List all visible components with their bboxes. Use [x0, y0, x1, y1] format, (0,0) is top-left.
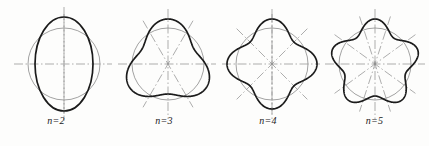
figure-caption-n2: n=2: [0, 115, 112, 127]
centerline-group: [325, 9, 425, 119]
centerline-group: [118, 9, 216, 119]
figure-caption-n3: n=3: [112, 115, 216, 127]
figure-caption-text-n5: n=5: [366, 115, 383, 126]
figure-panel-n5: n=5: [320, 0, 429, 146]
figure-caption-text-n2: n=2: [47, 115, 64, 126]
figure-caption-n5: n=5: [320, 115, 429, 127]
figure-caption-text-n4: n=4: [259, 115, 276, 126]
figure-panel-n2: n=2: [0, 0, 112, 146]
figure-caption-n4: n=4: [216, 115, 320, 127]
centerline-group: [14, 7, 112, 121]
figure-sheet: n=2 n=3 n=4 n=5: [0, 0, 429, 146]
centerline-group: [222, 9, 320, 119]
figure-panel-n4: n=4: [216, 0, 320, 146]
figure-panel-n3: n=3: [112, 0, 216, 146]
figure-caption-text-n3: n=3: [155, 115, 172, 126]
